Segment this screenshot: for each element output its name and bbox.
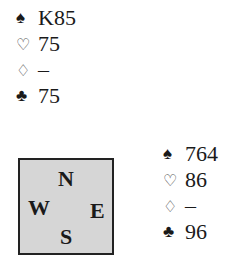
north-clubs-row: ♣ 75 [16, 84, 60, 108]
compass-box: N W E S [18, 158, 114, 255]
east-spades: 764 [185, 141, 218, 167]
east-spades-row: ♠ 764 [163, 142, 218, 166]
north-clubs: 75 [38, 83, 60, 109]
compass-south: S [60, 224, 72, 250]
east-hearts: 86 [185, 167, 207, 193]
north-spades-row: ♠ K85 [16, 6, 76, 30]
heart-icon: ♡ [16, 35, 38, 54]
club-icon: ♣ [16, 86, 38, 106]
diamond-icon: ♢ [16, 61, 38, 80]
north-hearts-row: ♡ 75 [16, 32, 60, 56]
heart-icon: ♡ [163, 171, 185, 190]
compass-west: W [28, 195, 50, 221]
club-icon: ♣ [163, 222, 185, 242]
compass-north: N [58, 166, 74, 192]
east-clubs-row: ♣ 96 [163, 220, 207, 244]
east-clubs: 96 [185, 219, 207, 245]
east-diamonds: – [185, 193, 196, 219]
east-hearts-row: ♡ 86 [163, 168, 207, 192]
north-diamonds: – [38, 57, 49, 83]
diamond-icon: ♢ [163, 197, 185, 216]
north-diamonds-row: ♢ – [16, 58, 49, 82]
north-spades: K85 [38, 5, 76, 31]
spade-icon: ♠ [163, 144, 185, 164]
compass-east: E [90, 198, 105, 224]
spade-icon: ♠ [16, 8, 38, 28]
north-hearts: 75 [38, 31, 60, 57]
east-diamonds-row: ♢ – [163, 194, 196, 218]
